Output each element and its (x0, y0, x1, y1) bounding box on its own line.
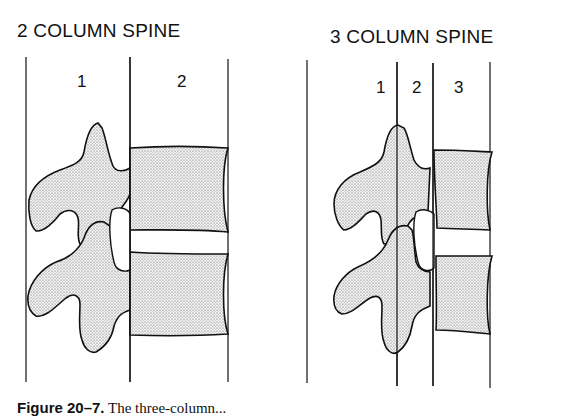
lower-vertebral-body (130, 252, 228, 336)
figure-caption-text: The three-column... (108, 400, 226, 416)
right-diagram (307, 60, 492, 388)
lower-vertebral-body (436, 256, 492, 334)
upper-vertebral-body (434, 150, 492, 230)
upper-vertebral-body (130, 147, 228, 233)
figure-label: Figure 20–7. (17, 399, 105, 416)
left-diagram (26, 57, 228, 382)
figure-caption: Figure 20–7. The three-column... (17, 399, 226, 417)
right-foramen (414, 210, 434, 271)
